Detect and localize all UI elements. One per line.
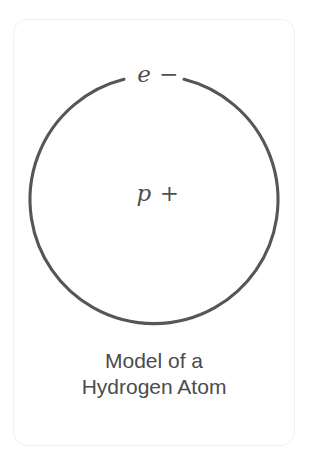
- figure-root: e − p + Model of a Hydrogen Atom: [0, 0, 316, 472]
- electron-label: e −: [0, 63, 316, 86]
- caption-line-2: Hydrogen Atom: [13, 374, 295, 400]
- figure-caption: Model of a Hydrogen Atom: [13, 348, 295, 400]
- proton-label: p +: [0, 182, 316, 205]
- caption-line-1: Model of a: [13, 348, 295, 374]
